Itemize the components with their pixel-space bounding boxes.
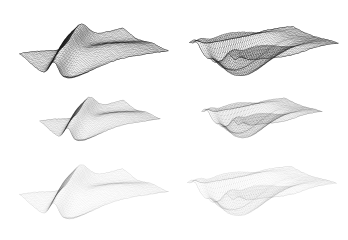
mesh-canvas-top-right bbox=[188, 12, 340, 90]
mesh-canvas-bot-right bbox=[186, 150, 338, 232]
panel-top-right bbox=[188, 12, 340, 90]
panel-bot-left bbox=[18, 152, 170, 232]
panel-mid-left bbox=[30, 88, 170, 150]
mesh-canvas-mid-right bbox=[192, 86, 332, 150]
panel-mid-right bbox=[192, 86, 332, 150]
panel-top-left bbox=[18, 12, 170, 90]
mesh-canvas-top-left bbox=[18, 12, 170, 90]
wireframe-mesh-figure bbox=[0, 0, 348, 240]
mesh-canvas-mid-left bbox=[30, 88, 170, 150]
panel-bot-right bbox=[186, 150, 338, 232]
mesh-canvas-bot-left bbox=[18, 152, 170, 232]
